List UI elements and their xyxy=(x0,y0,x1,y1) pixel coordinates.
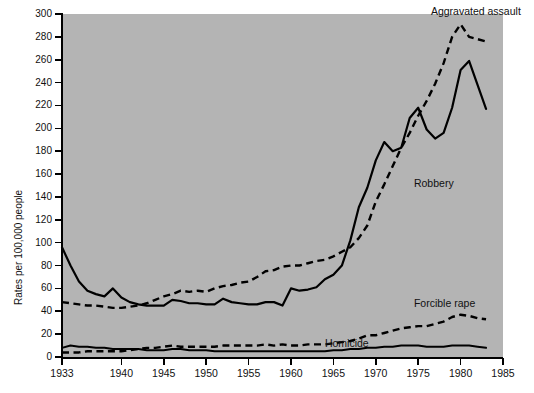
series-label-aggravated-assault: Aggravated assault xyxy=(431,5,521,17)
series-line-aggravated-assault xyxy=(62,24,486,308)
series-label-robbery: Robbery xyxy=(414,177,454,189)
series-label-homicide: Homicide xyxy=(325,337,369,349)
chart-figure: Rates per 100,000 people 020406080100120… xyxy=(0,0,534,393)
series-lines xyxy=(0,0,534,393)
series-label-forcible-rape: Forcible rape xyxy=(414,297,475,309)
